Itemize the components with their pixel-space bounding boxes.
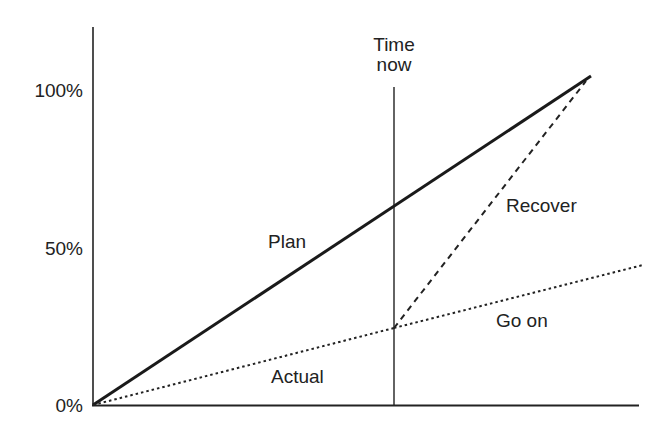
- y-tick-0: 0%: [3, 396, 83, 415]
- y-tick-50: 50%: [3, 239, 83, 258]
- actual-label: Actual: [271, 367, 324, 386]
- go-on-label: Go on: [496, 311, 548, 330]
- time-now-label-line1: Time: [364, 35, 424, 54]
- time-now-label-line2: now: [364, 55, 424, 74]
- chart-canvas: [0, 0, 668, 433]
- plan-label: Plan: [268, 232, 306, 251]
- y-tick-100: 100%: [3, 81, 83, 100]
- actual-line: [93, 328, 394, 405]
- recover-label: Recover: [506, 196, 577, 215]
- plan-line: [93, 76, 591, 405]
